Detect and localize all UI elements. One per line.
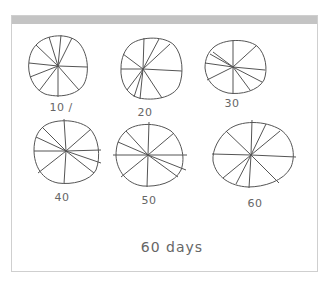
label-40: 40 bbox=[55, 191, 70, 204]
caption-text: 60 days bbox=[141, 239, 203, 255]
pie-sketch-60 bbox=[212, 120, 296, 188]
label-10: 10 / bbox=[49, 101, 72, 114]
pie-sketch-20 bbox=[121, 38, 182, 99]
label-50: 50 bbox=[142, 194, 157, 207]
pie-sketch-40 bbox=[34, 119, 101, 184]
pie-sketch-50 bbox=[113, 122, 187, 187]
label-20: 20 bbox=[138, 106, 153, 119]
pie-sketch-10 bbox=[29, 35, 88, 97]
pie-sketch-30 bbox=[205, 40, 266, 94]
label-30: 30 bbox=[225, 97, 240, 110]
label-60: 60 bbox=[248, 197, 263, 210]
